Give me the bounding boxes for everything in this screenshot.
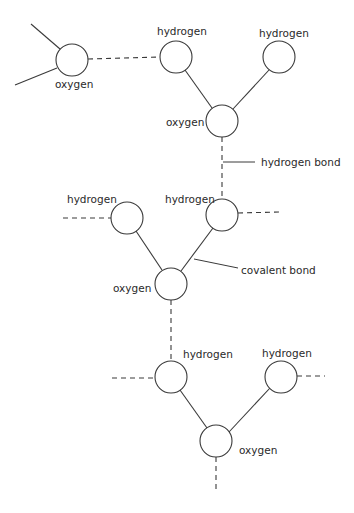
label-hydrogen-m3-left: hydrogen: [67, 193, 117, 205]
covalent-bond-m3-right: [181, 228, 213, 271]
hydrogen-atom-m3-left: [111, 202, 143, 234]
label-hydrogen-m3-right: hydrogen: [165, 193, 215, 205]
hydrogen-atom-m4-right: [265, 361, 297, 393]
covalent-bond-m4-right: [229, 388, 270, 432]
label-hydrogen-m2-right: hydrogen: [259, 27, 309, 39]
covalent-bond-m2-left: [185, 70, 212, 108]
oxygen-atom-m2: [206, 105, 238, 137]
hydrogen-bond-m3-right-outgoing: [238, 212, 280, 213]
label-hydrogen-m2-left: hydrogen: [157, 25, 207, 37]
oxygen-atom-m3: [155, 268, 187, 300]
covalent-bond-leader-line: [194, 259, 238, 268]
oxygen-atom-m1: [56, 44, 88, 76]
label-oxygen-m1: oxygen: [55, 78, 93, 90]
covalent-bond-m1-lower: [15, 68, 57, 85]
hydrogen-atom-m2-right: [263, 41, 295, 73]
covalent-bond-m2-right: [233, 70, 269, 109]
hydrogen-atom-m4-left: [155, 361, 187, 393]
label-oxygen-m2: oxygen: [166, 116, 204, 128]
water-hydrogen-bond-diagram: oxygen hydrogen hydrogen oxygen hydrogen…: [0, 0, 354, 513]
label-oxygen-m3: oxygen: [113, 282, 151, 294]
covalent-bond-m3-left: [136, 231, 162, 270]
covalent-bond-m1-upper: [31, 24, 60, 49]
label-covalent-bond: covalent bond: [241, 264, 316, 276]
label-hydrogen-bond: hydrogen bond: [261, 156, 341, 168]
label-hydrogen-m4-left: hydrogen: [183, 348, 233, 360]
hydrogen-atom-m2-left: [160, 41, 192, 73]
label-oxygen-m4: oxygen: [239, 444, 277, 456]
covalent-bond-m4-left: [180, 390, 207, 428]
label-hydrogen-m4-right: hydrogen: [262, 347, 312, 359]
oxygen-atom-m4: [200, 425, 232, 457]
hydrogen-bond-m1-m2: [88, 57, 160, 59]
